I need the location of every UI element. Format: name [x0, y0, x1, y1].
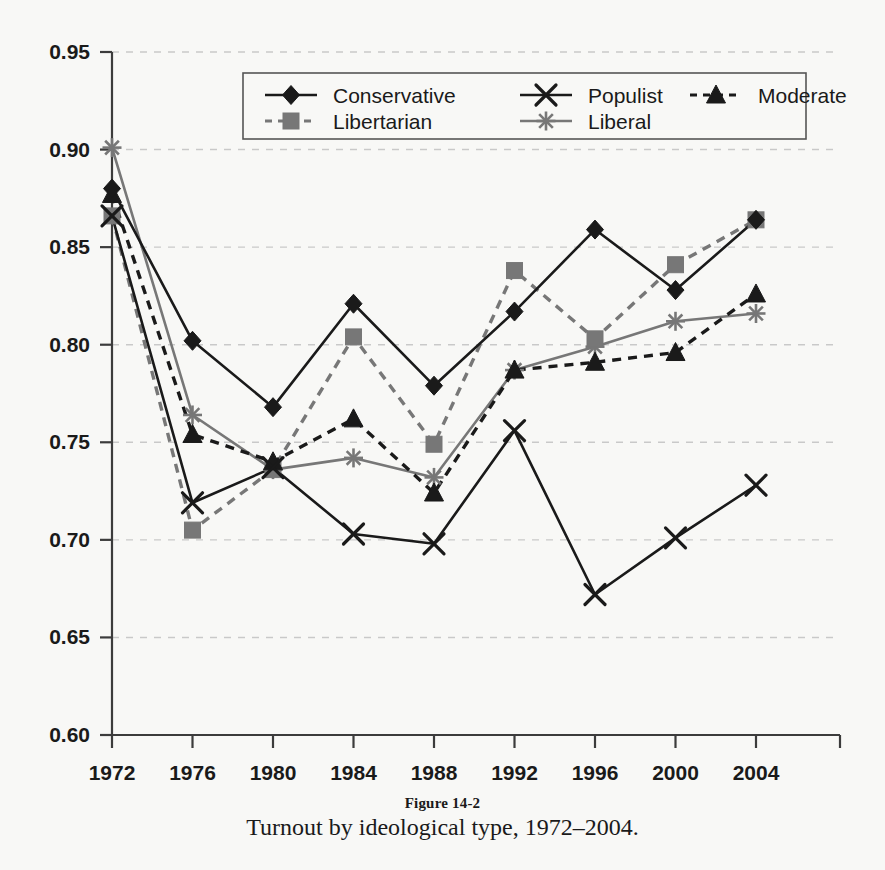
chart-legend: ConservativePopulistModerateLibertarianL… [243, 73, 847, 139]
series-line-populist [112, 216, 756, 595]
axes [112, 52, 840, 735]
gridlines [112, 52, 840, 735]
y-tick-label-0.70: 0.70 [49, 528, 90, 551]
series-layer [102, 138, 766, 604]
data-point-libertarian-2000 [668, 257, 684, 273]
y-tick-label-0.80: 0.80 [49, 333, 90, 356]
data-point-moderate-2004 [747, 284, 766, 302]
legend-label-moderate: Moderate [758, 84, 847, 107]
figure-caption: Figure 14-2 Turnout by ideological type,… [0, 795, 885, 841]
data-point-populist-1996 [585, 584, 605, 604]
data-point-conservative-1976 [184, 331, 201, 350]
data-point-legend-liberal-1972 [537, 112, 556, 131]
data-point-libertarian-1992 [507, 263, 523, 279]
figure-page: 0.950.900.850.800.750.700.650.60 1972197… [0, 0, 885, 870]
data-point-liberal-1984 [344, 448, 363, 467]
x-tick-label-1996: 1996 [572, 761, 619, 784]
legend-label-populist: Populist [588, 84, 663, 107]
series-markers-liberal [103, 138, 766, 487]
legend-box [243, 73, 806, 139]
legend-label-libertarian: Libertarian [333, 110, 432, 133]
x-tick-labels: 197219761980198419881992199620002004 [89, 761, 780, 784]
y-tick-label-0.95: 0.95 [49, 40, 90, 63]
data-point-liberal-1976 [183, 405, 202, 424]
data-point-moderate-1984 [344, 409, 363, 427]
x-tick-label-1984: 1984 [330, 761, 377, 784]
figure-caption-text: Turnout by ideological type, 1972–2004. [0, 814, 885, 841]
data-point-libertarian-1976 [185, 522, 201, 538]
x-tick-label-1976: 1976 [169, 761, 216, 784]
x-tick-label-1980: 1980 [250, 761, 297, 784]
y-tick-label-0.90: 0.90 [49, 138, 90, 161]
data-point-liberal-2000 [666, 312, 685, 331]
x-tick-marks [112, 735, 840, 748]
y-tick-label-0.60: 0.60 [49, 723, 90, 746]
data-point-libertarian-1996 [587, 331, 603, 347]
legend-label-liberal: Liberal [588, 110, 651, 133]
x-tick-label-1988: 1988 [411, 761, 458, 784]
x-tick-label-1972: 1972 [89, 761, 136, 784]
series-line-liberal [112, 148, 756, 478]
data-point-populist-1992 [505, 421, 525, 441]
turnout-line-chart: 0.950.900.850.800.750.700.650.60 1972197… [0, 0, 885, 800]
data-point-libertarian-1988 [426, 436, 442, 452]
y-tick-label-0.75: 0.75 [49, 430, 90, 453]
data-point-populist-2004 [746, 475, 766, 495]
x-tick-label-2000: 2000 [652, 761, 699, 784]
x-tick-label-1992: 1992 [491, 761, 538, 784]
y-tick-label-0.85: 0.85 [49, 235, 90, 258]
data-point-libertarian-1984 [346, 329, 362, 345]
y-tick-labels: 0.950.900.850.800.750.700.650.60 [49, 40, 90, 746]
x-tick-label-2004: 2004 [733, 761, 780, 784]
data-point-liberal-1972 [103, 138, 122, 157]
series-markers-conservative [104, 179, 765, 417]
data-point-legend-libertarian-1972 [283, 113, 299, 129]
figure-number: Figure 14-2 [0, 795, 885, 812]
series-markers-moderate [103, 184, 766, 501]
data-point-populist-2000 [666, 528, 686, 548]
y-tick-label-0.65: 0.65 [49, 625, 90, 648]
data-point-moderate-1976 [183, 424, 202, 442]
data-point-moderate-2000 [666, 343, 685, 361]
data-point-liberal-2004 [747, 304, 766, 323]
legend-label-conservative: Conservative [333, 84, 456, 107]
series-line-conservative [112, 189, 756, 408]
